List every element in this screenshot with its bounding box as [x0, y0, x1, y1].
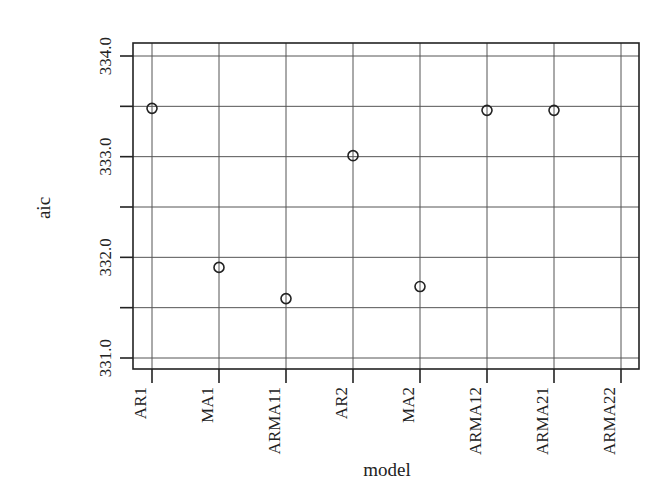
x-tick-label: AR1: [131, 387, 150, 419]
y-axis-title: aic: [33, 197, 54, 219]
grid-lines: [133, 43, 639, 369]
x-tick-label: ARMA11: [265, 387, 284, 454]
x-axis: AR1MA1ARMA11AR2MA2ARMA12ARMA21ARMA22: [131, 369, 621, 455]
x-tick-label: ARMA21: [533, 387, 552, 455]
y-tick-label: 332.0: [96, 238, 115, 276]
scatter-chart: 331.0332.0333.0334.0 AR1MA1ARMA11AR2MA2A…: [0, 0, 671, 499]
x-axis-title: model: [363, 459, 411, 480]
x-tick-label: ARMA22: [600, 387, 619, 455]
plot-area-frame: [133, 43, 639, 369]
y-tick-label: 333.0: [96, 138, 115, 176]
y-tick-label: 331.0: [96, 339, 115, 377]
x-tick-label: ARMA12: [466, 387, 485, 455]
y-tick-label: 334.0: [96, 37, 115, 75]
x-tick-label: MA1: [198, 387, 217, 423]
x-tick-label: AR2: [332, 387, 351, 419]
x-tick-label: MA2: [399, 387, 418, 423]
y-axis: 331.0332.0333.0334.0: [96, 37, 133, 377]
